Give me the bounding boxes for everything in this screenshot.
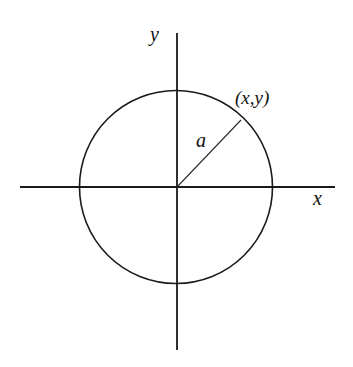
radius-line (177, 120, 241, 187)
x-axis-label: x (313, 188, 322, 208)
circle-diagram (0, 0, 353, 367)
diagram-canvas: y x (x,y) a (0, 0, 353, 367)
point-label: (x,y) (235, 88, 269, 107)
radius-label: a (196, 130, 206, 150)
y-axis-label: y (150, 24, 159, 44)
